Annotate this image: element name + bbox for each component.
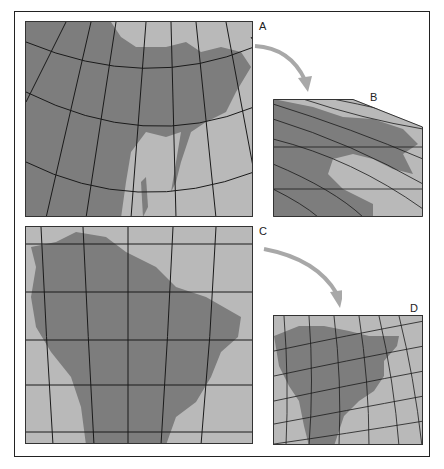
panel-label-a: A <box>259 20 266 32</box>
map-panel-b <box>273 99 423 217</box>
map-a-graphic <box>26 22 253 217</box>
map-b-graphic <box>273 99 423 217</box>
map-panel-c <box>25 226 253 444</box>
map-panel-a <box>25 21 253 217</box>
map-c-graphic <box>26 227 253 444</box>
map-d-graphic <box>274 316 423 445</box>
arrow-c-to-d-icon <box>262 244 342 314</box>
map-panel-d <box>273 315 423 445</box>
panel-label-c: C <box>259 225 267 237</box>
panel-label-b: B <box>370 91 377 103</box>
panel-label-d: D <box>410 302 418 314</box>
arrow-a-to-b-icon <box>250 38 330 98</box>
